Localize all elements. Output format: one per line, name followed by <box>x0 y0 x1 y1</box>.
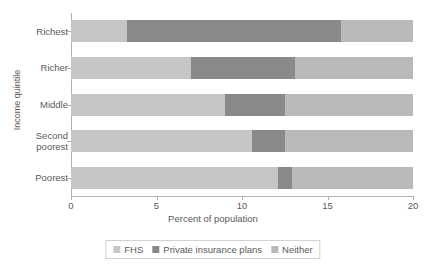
x-axis-tick-label: 10 <box>227 200 257 211</box>
x-axis-tick-label: 15 <box>313 200 343 211</box>
legend-label: Private insurance plans <box>163 244 262 255</box>
y-axis-tick-label: Richer <box>2 62 68 73</box>
x-axis-tick-label: 20 <box>398 200 426 211</box>
bar-row <box>71 167 413 189</box>
bar-row <box>71 94 413 116</box>
bar-segment <box>278 167 292 189</box>
legend-item[interactable]: Neither <box>271 244 313 255</box>
bar-segment <box>252 130 284 152</box>
bar-segment <box>71 130 252 152</box>
y-axis-tick-label: Poorest <box>2 172 68 183</box>
plot-area <box>71 13 413 196</box>
chart-legend: FHSPrivate insurance plansNeither <box>105 240 320 259</box>
legend-label: Neither <box>282 244 313 255</box>
bar-segment <box>127 20 341 42</box>
bar-segment <box>71 57 191 79</box>
bar-segment <box>285 130 413 152</box>
legend-swatch-icon <box>271 246 278 253</box>
bar-row <box>71 57 413 79</box>
y-axis-tick-label: Middle <box>2 99 68 110</box>
legend-item[interactable]: FHS <box>113 244 143 255</box>
bar-segment <box>341 20 413 42</box>
y-axis-tick <box>67 105 71 106</box>
x-axis-tick-label: 0 <box>56 200 86 211</box>
y-axis-category-labels: RichestRicherMiddleSecondpoorestPoorest <box>0 13 68 196</box>
bar-segment <box>71 20 127 42</box>
legend-swatch-icon <box>152 246 159 253</box>
stacked-bar-chart: Income quintile RichestRicherMiddleSecon… <box>0 0 426 270</box>
bar-segment <box>285 94 413 116</box>
legend-label: FHS <box>124 244 143 255</box>
x-axis-tick-label: 5 <box>142 200 172 211</box>
bar-segment <box>71 94 225 116</box>
bar-row <box>71 20 413 42</box>
bar-row <box>71 130 413 152</box>
y-axis-tick <box>67 141 71 142</box>
legend-swatch-icon <box>113 246 120 253</box>
legend-item[interactable]: Private insurance plans <box>152 244 262 255</box>
y-axis-tick <box>67 31 71 32</box>
y-axis-tick <box>67 68 71 69</box>
bar-segment <box>191 57 295 79</box>
bar-segment <box>225 94 285 116</box>
y-axis-tick-label: Secondpoorest <box>2 130 68 152</box>
x-axis-title: Percent of population <box>0 213 426 224</box>
bar-segment <box>71 167 278 189</box>
bar-segment <box>295 57 413 79</box>
bar-segment <box>292 167 413 189</box>
y-axis-tick <box>67 178 71 179</box>
y-axis-tick-label: Richest <box>2 26 68 37</box>
